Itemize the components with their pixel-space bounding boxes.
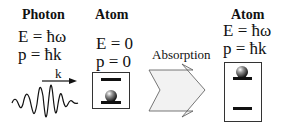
lower-level-icon bbox=[101, 101, 121, 104]
wave-packet-icon bbox=[12, 85, 78, 117]
atom-final-box bbox=[225, 63, 262, 122]
atom-ball-icon bbox=[105, 90, 117, 102]
diagram-graphics bbox=[0, 0, 284, 129]
absorption-arrow-icon bbox=[149, 64, 205, 117]
atom-ball-icon bbox=[236, 66, 248, 78]
wavevector-arrow-icon bbox=[42, 78, 77, 84]
lower-level-icon bbox=[233, 107, 252, 110]
upper-level-icon bbox=[233, 77, 252, 80]
upper-level-icon bbox=[101, 78, 121, 81]
atom-initial-box bbox=[93, 73, 130, 109]
